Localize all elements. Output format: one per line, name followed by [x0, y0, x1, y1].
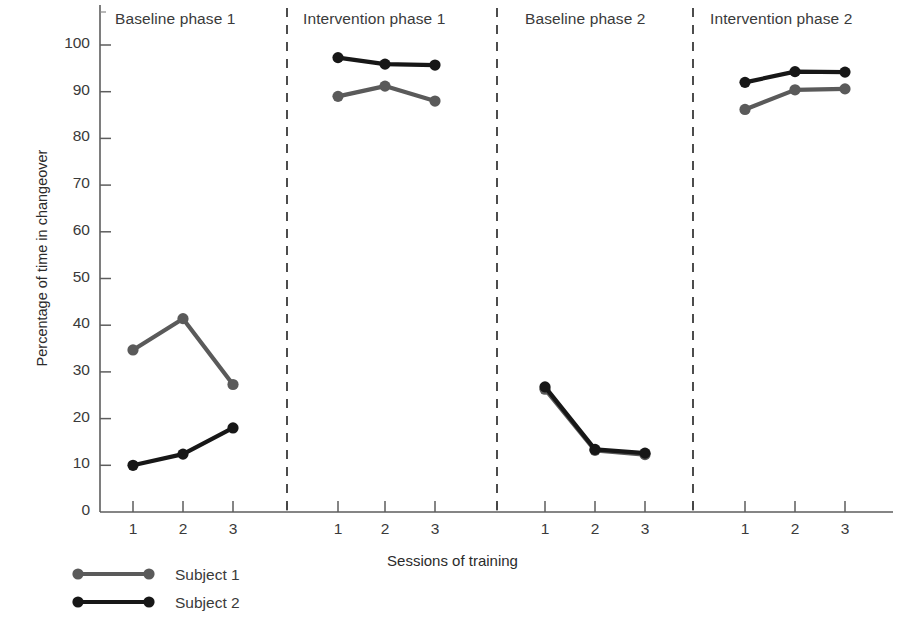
data-point-1 [379, 80, 390, 91]
x-tick-label: 1 [123, 520, 143, 538]
legend-label-subject-2: Subject 2 [175, 594, 240, 612]
x-tick-label: 2 [375, 520, 395, 538]
data-point-2 [429, 59, 440, 70]
y-tick-label: 90 [44, 81, 90, 99]
data-point-1 [429, 95, 440, 106]
phase-header-baseline-1: Baseline phase 1 [115, 10, 236, 28]
x-tick-label: 3 [635, 520, 655, 538]
data-point-1 [839, 83, 850, 94]
x-tick-label: 3 [835, 520, 855, 538]
data-point-2 [227, 422, 238, 433]
data-point-2 [539, 381, 550, 392]
legend-swatch-dot-2 [143, 596, 154, 607]
legend-label-subject-1: Subject 1 [175, 566, 240, 584]
data-point-1 [332, 91, 343, 102]
phase-header-baseline-2: Baseline phase 2 [525, 10, 646, 28]
x-tick-label: 1 [735, 520, 755, 538]
data-point-1 [227, 379, 238, 390]
x-tick-label: 3 [425, 520, 445, 538]
y-tick-label: 60 [44, 221, 90, 239]
plot-area [0, 0, 905, 642]
series-line-2-phase-1 [133, 428, 233, 465]
x-tick-label: 2 [785, 520, 805, 538]
y-tick-label: 80 [44, 127, 90, 145]
data-point-2 [379, 59, 390, 70]
y-tick-label: 40 [44, 314, 90, 332]
x-tick-label: 2 [173, 520, 193, 538]
data-point-2 [177, 448, 188, 459]
y-tick-label: 0 [44, 501, 90, 519]
y-tick-label: 10 [44, 454, 90, 472]
series-line-2-phase-3 [545, 387, 645, 453]
data-point-1 [789, 84, 800, 95]
data-point-2 [639, 448, 650, 459]
phase-header-intervention-1: Intervention phase 1 [303, 10, 445, 28]
data-point-2 [789, 66, 800, 77]
data-point-2 [127, 460, 138, 471]
phase-header-intervention-2: Intervention phase 2 [710, 10, 852, 28]
data-point-2 [739, 77, 750, 88]
legend-swatch-dot-1 [72, 568, 83, 579]
x-tick-label: 1 [328, 520, 348, 538]
series-line-1-phase-1 [133, 319, 233, 385]
data-point-2 [839, 66, 850, 77]
legend-swatch-dot-1 [143, 568, 154, 579]
data-point-1 [177, 313, 188, 324]
x-tick-label: 2 [585, 520, 605, 538]
x-axis-title: Sessions of training [0, 552, 905, 569]
data-point-2 [589, 444, 600, 455]
data-point-1 [127, 344, 138, 355]
x-tick-label: 3 [223, 520, 243, 538]
y-tick-label: 30 [44, 361, 90, 379]
data-point-1 [739, 104, 750, 115]
y-tick-label: 20 [44, 408, 90, 426]
y-tick-label: 100 [44, 34, 90, 52]
x-tick-label: 1 [535, 520, 555, 538]
data-point-2 [332, 52, 343, 63]
chart-figure: Baseline phase 1 Intervention phase 1 Ba… [0, 0, 905, 642]
legend-swatch-dot-2 [72, 596, 83, 607]
y-tick-label: 50 [44, 268, 90, 286]
y-tick-label: 70 [44, 174, 90, 192]
